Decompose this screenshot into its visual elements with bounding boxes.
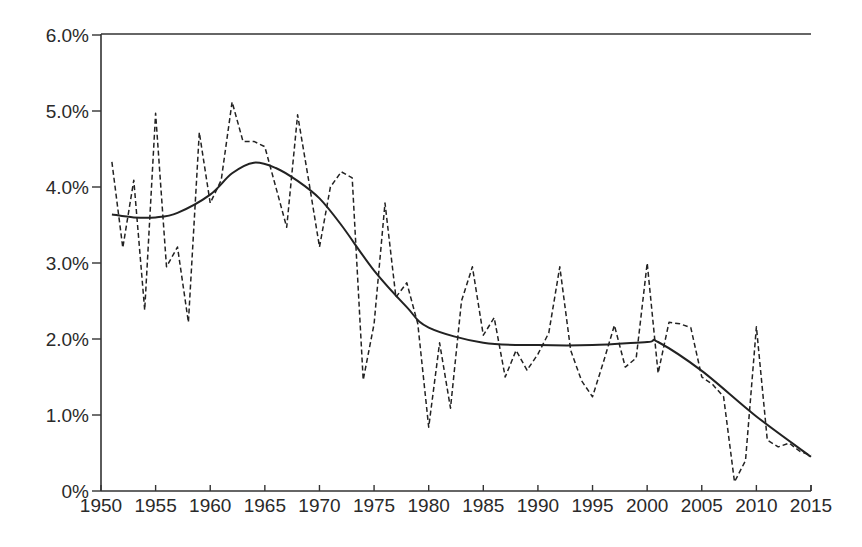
x-tick-label: 1965 [244, 495, 286, 516]
x-tick-label: 1975 [353, 495, 395, 516]
x-tick-label: 1970 [298, 495, 340, 516]
y-tick-label: 2.0% [46, 329, 89, 350]
x-tick-label: 2005 [681, 495, 723, 516]
y-tick-label: 4.0% [46, 177, 89, 198]
x-tick-label: 2015 [790, 495, 832, 516]
x-tick-label: 2010 [735, 495, 777, 516]
y-tick-label: 6.0% [46, 25, 89, 46]
x-tick-label: 1990 [517, 495, 559, 516]
y-axis-ticks: 0%1.0%2.0%3.0%4.0%5.0%6.0% [46, 25, 101, 502]
axes [101, 34, 811, 491]
y-tick-label: 5.0% [46, 101, 89, 122]
x-axis-ticks: 1950195519601965197019751980198519901995… [80, 485, 832, 516]
line-chart: 0%1.0%2.0%3.0%4.0%5.0%6.0% 1950195519601… [0, 0, 862, 547]
x-tick-label: 1985 [462, 495, 504, 516]
series-layer [112, 102, 811, 482]
x-tick-label: 1955 [134, 495, 176, 516]
x-tick-label: 1950 [80, 495, 122, 516]
y-tick-label: 3.0% [46, 253, 89, 274]
x-tick-label: 1995 [571, 495, 613, 516]
annual-data-line [112, 102, 811, 482]
y-tick-label: 1.0% [46, 405, 89, 426]
x-tick-label: 1980 [408, 495, 450, 516]
trend-line [112, 163, 811, 457]
x-tick-label: 2000 [626, 495, 668, 516]
x-tick-label: 1960 [189, 495, 231, 516]
